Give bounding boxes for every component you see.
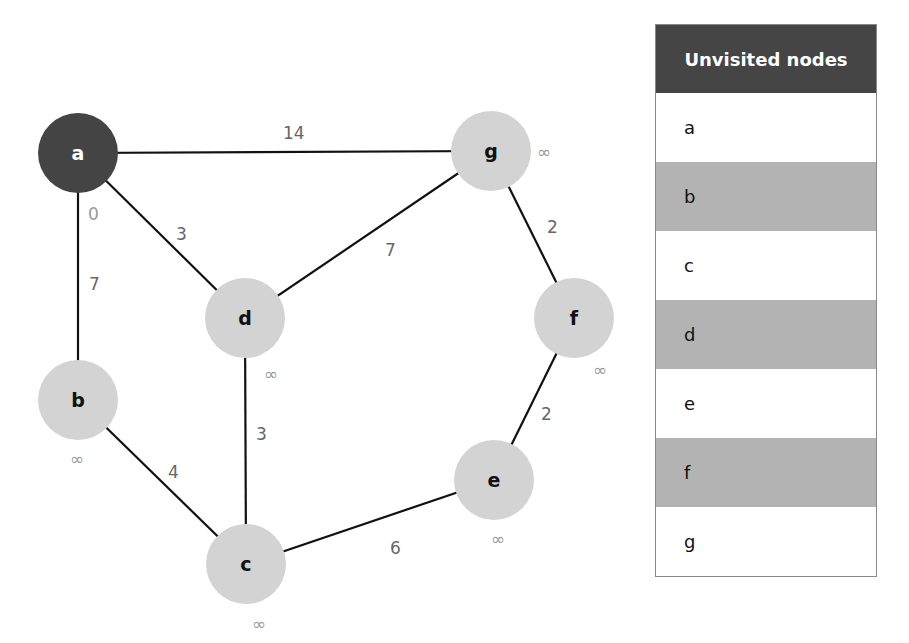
distance-f: ∞	[593, 360, 607, 380]
weight-a-d: 3	[176, 224, 187, 244]
node-d: d	[205, 278, 285, 358]
node-f: f	[534, 278, 614, 358]
weight-g-f: 2	[547, 217, 558, 237]
unvisited-nodes-table: Unvisited nodes a b c d e f g	[655, 24, 877, 577]
graph-diagram: 14 3 7 7 2 3 4 6 2 a b c d e	[0, 0, 640, 643]
distance-labels: 0 ∞ ∞ ∞ ∞ ∞ ∞	[70, 142, 607, 634]
weight-f-e: 2	[541, 404, 552, 424]
node-e: e	[454, 440, 534, 520]
table-row: d	[656, 300, 876, 369]
weight-a-g: 14	[283, 123, 305, 143]
table-row: b	[656, 162, 876, 231]
distance-c: ∞	[252, 614, 266, 634]
table-row: a	[656, 93, 876, 162]
node-a: a	[38, 113, 118, 193]
weight-d-g: 7	[385, 240, 396, 260]
table-row: g	[656, 507, 876, 576]
weight-d-c: 3	[256, 424, 267, 444]
nodes: a b c d e f g	[38, 111, 614, 604]
edge-d-g	[245, 151, 491, 318]
node-c: c	[206, 524, 286, 604]
svg-text:f: f	[570, 307, 579, 329]
weight-a-b: 7	[89, 274, 100, 294]
svg-text:d: d	[238, 307, 252, 329]
distance-d: ∞	[264, 364, 278, 384]
weight-b-c: 4	[168, 462, 179, 482]
svg-text:c: c	[240, 553, 251, 575]
table-row: f	[656, 438, 876, 507]
distance-g: ∞	[537, 142, 551, 162]
edge-a-g	[78, 151, 491, 153]
table-header: Unvisited nodes	[656, 25, 876, 93]
svg-text:a: a	[72, 142, 85, 164]
distance-a: 0	[88, 204, 99, 224]
distance-b: ∞	[70, 449, 84, 469]
svg-text:g: g	[484, 140, 498, 162]
node-b: b	[38, 360, 118, 440]
table-row: c	[656, 231, 876, 300]
distance-e: ∞	[491, 529, 505, 549]
weight-c-e: 6	[390, 538, 401, 558]
node-g: g	[451, 111, 531, 191]
svg-text:b: b	[71, 389, 85, 411]
table-row: e	[656, 369, 876, 438]
svg-text:e: e	[488, 469, 501, 491]
